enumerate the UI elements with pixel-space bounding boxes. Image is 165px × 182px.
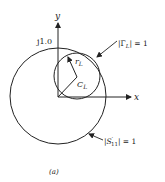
center-label: CL [77, 80, 87, 90]
y-axis-label: y [54, 11, 61, 21]
radius-label: rL [75, 57, 83, 67]
center-vector [58, 77, 77, 97]
y-tick-label: j1.0 [36, 37, 52, 46]
gamma-label-arrow [97, 41, 117, 57]
stability-circle-diagram: y x j1.0 rL CL |ΓL| = 1 |S′11| = 1 (a) [0, 0, 165, 182]
gamma-circle-label: |ΓL| = 1 [118, 39, 148, 49]
s11-circle-label: |S′11| = 1 [104, 136, 136, 147]
x-axis-label: x [134, 92, 139, 102]
figure-caption: (a) [49, 168, 59, 176]
s11-label-arrow [89, 134, 103, 140]
